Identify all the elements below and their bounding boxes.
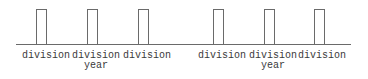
label-group1-item3: division <box>117 51 177 61</box>
bar-group2-item3 <box>314 9 325 44</box>
label-subtext: year <box>66 61 126 71</box>
baseline-axis <box>16 44 351 45</box>
label-text: division <box>123 50 171 61</box>
label-text: division <box>198 50 246 61</box>
bar-group2-item2 <box>264 9 275 44</box>
bar-group1-item1 <box>36 9 47 44</box>
label-group2-item3: division <box>292 51 352 61</box>
label-text: division <box>22 50 70 61</box>
bar-group1-item3 <box>138 9 149 44</box>
diagram-canvas: division division year division division… <box>0 0 368 79</box>
label-text: division <box>298 50 346 61</box>
bar-group2-item1 <box>213 9 224 44</box>
label-subtext: year <box>243 61 303 71</box>
bar-group1-item2 <box>87 9 98 44</box>
